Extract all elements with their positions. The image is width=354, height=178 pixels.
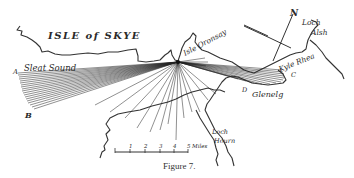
scale-tick-1: 1 xyxy=(129,143,133,149)
loch-alsh-label-1: Loch xyxy=(301,18,321,27)
loch-alsh-label-2: Alsh xyxy=(310,28,328,37)
kyle-rhea-label: Kyle Rhea xyxy=(276,51,316,74)
north-label: N xyxy=(289,8,299,18)
point-b-label: B xyxy=(24,110,32,120)
loch-hourn-label-2: Hourn xyxy=(213,137,235,145)
point-c-label: C xyxy=(291,71,296,79)
north-arrow xyxy=(244,14,299,61)
sleat-sound-label: Sleat Sound xyxy=(24,63,77,73)
scale-tick-5: 5 xyxy=(187,143,191,149)
scale-tick-2: 2 xyxy=(143,143,148,149)
glenelg-label: Glenelg xyxy=(252,90,283,99)
isle-of-skye-label: ISLE of SKYE xyxy=(47,30,141,41)
scale-unit: Miles xyxy=(191,143,207,149)
loch-hourn-label-1: Loch xyxy=(211,128,228,136)
isle-oronsay-label: Isle Oronsay xyxy=(181,27,229,58)
scale-tick-4: 4 xyxy=(172,143,177,149)
mainland-south-coastline xyxy=(205,76,238,110)
point-d-label: D xyxy=(241,86,248,94)
scale-tick-3: 3 xyxy=(159,143,163,149)
figure-caption: Figure 7. xyxy=(163,161,196,171)
map-figure: N xyxy=(0,0,354,178)
scale-bar: 1 2 3 4 5 Miles xyxy=(115,143,207,153)
viewpoint-hub xyxy=(176,60,180,64)
point-a-label: A xyxy=(12,68,18,76)
